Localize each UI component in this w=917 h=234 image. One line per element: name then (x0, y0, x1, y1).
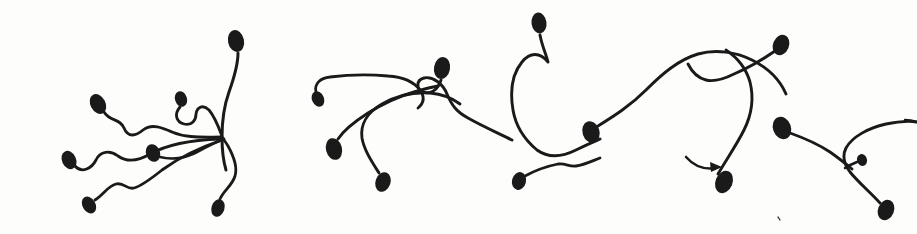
ink-drawing-canvas (0, 0, 917, 234)
sperm-illustration-figure: Hand-drawn ink illustration of spermatoz… (0, 0, 917, 234)
